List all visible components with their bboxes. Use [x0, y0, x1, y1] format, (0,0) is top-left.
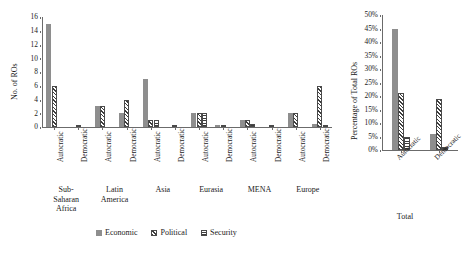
right-y-tick: 45% [354, 25, 378, 32]
right-y-tickmark [380, 29, 381, 31]
right-y-tick: 5% [354, 133, 378, 140]
legend: EconomicPoliticalSecurity [96, 228, 237, 237]
left-x-tickmark [78, 128, 79, 130]
right-y-tickmark [380, 123, 381, 125]
right-y-tickmark [380, 150, 381, 152]
right-y-tickmark [380, 83, 381, 85]
region-label: Europe [281, 185, 335, 195]
right-y-tickmark [380, 110, 381, 112]
x-tick-democratic: Democratic [323, 128, 331, 162]
legend-item-security: Security [201, 228, 237, 237]
legend-item-political: Political [151, 228, 187, 237]
left-y-tickmark [40, 86, 41, 88]
legend-label: Security [210, 228, 237, 237]
bar-political [293, 113, 298, 127]
left-y-tickmark [40, 17, 41, 19]
left-y-tick: 16 [16, 13, 38, 20]
left-y-tick: 0 [16, 123, 38, 130]
region-label: Asia [136, 185, 190, 195]
right-y-tick: 30% [354, 65, 378, 72]
bar-political [100, 106, 105, 127]
right-y-axis-line [382, 15, 383, 151]
x-tick-autocratic: Autocratic [57, 132, 65, 162]
x-tick-autocratic: Autocratic [202, 132, 210, 162]
bar-economic [143, 79, 148, 127]
bar-political [52, 86, 57, 127]
region-label: LatinAmerica [88, 185, 142, 204]
left-y-tick: 8 [16, 68, 38, 75]
bar-security [154, 120, 159, 127]
bar-economic [288, 113, 293, 127]
left-y-tick: 4 [16, 96, 38, 103]
bar-political [148, 120, 153, 127]
bar-economic [215, 125, 220, 127]
bar-political [398, 93, 404, 150]
bar-security [202, 113, 207, 127]
bar-political [124, 100, 129, 128]
bar-economic [312, 124, 317, 127]
left-x-tickmark [223, 128, 224, 130]
bar-economic [430, 134, 436, 150]
left-y-tick: 10 [16, 55, 38, 62]
figure-root: No. of ROs 0246810121416 AutocraticDemoc… [0, 0, 465, 256]
right-y-tick: 40% [354, 38, 378, 45]
right-y-tickmark [380, 42, 381, 44]
bar-political [221, 125, 226, 127]
right-y-tickmark [380, 56, 381, 58]
right-y-tick: 25% [354, 79, 378, 86]
bar-economic [240, 120, 245, 127]
left-y-tickmark [40, 113, 41, 115]
x-tick-democratic: Democratic [130, 128, 138, 162]
x-tick-democratic: Democratic [275, 128, 283, 162]
bar-economic [119, 113, 124, 127]
right-y-tick: 35% [354, 52, 378, 59]
bar-political [197, 113, 202, 127]
left-x-tickmark [272, 128, 273, 130]
right-x-axis-label: Total [370, 212, 440, 222]
left-y-tick: 12 [16, 41, 38, 48]
right-chart-panel: Percentage of Total ROs 0%5%10%15%20%25%… [340, 0, 465, 256]
right-y-tick: 10% [354, 119, 378, 126]
x-tick-autocratic: Autocratic [299, 132, 307, 162]
x-tick-democratic: Democratic [226, 128, 234, 162]
right-x-tickmark [439, 151, 440, 153]
right-y-tick: 50% [354, 11, 378, 18]
x-tick-autocratic: Autocratic [154, 132, 162, 162]
right-y-axis-label: Percentage of Total ROs [350, 62, 359, 140]
legend-swatch-economic-icon [96, 230, 102, 236]
left-chart-panel: No. of ROs 0246810121416 AutocraticDemoc… [0, 0, 340, 256]
right-x-tickmark [401, 151, 402, 153]
x-tick-autocratic: Autocratic [250, 132, 258, 162]
right-y-tick: 20% [354, 92, 378, 99]
bar-economic [95, 106, 100, 127]
right-y-tickmark [380, 96, 381, 98]
bar-economic [392, 29, 398, 151]
left-x-tickmark [151, 128, 152, 130]
region-label: Eurasia [184, 185, 238, 195]
right-y-tickmark [380, 69, 381, 71]
region-label: MENA [233, 185, 287, 195]
left-x-tickmark [199, 128, 200, 130]
legend-item-economic: Economic [96, 228, 137, 237]
left-x-tickmark [320, 128, 321, 130]
left-y-tickmark [40, 72, 41, 74]
legend-label: Political [160, 228, 187, 237]
left-x-tickmark [54, 128, 55, 130]
left-x-tickmark [247, 128, 248, 130]
bar-political [76, 125, 81, 127]
right-y-tick: 0% [354, 146, 378, 153]
right-y-tick: 15% [354, 106, 378, 113]
left-y-tickmark [40, 45, 41, 47]
legend-label: Economic [105, 228, 137, 237]
left-y-tickmark [40, 58, 41, 60]
region-label: Sub-SaharanAfrica [39, 185, 93, 214]
left-y-axis-line [42, 17, 43, 128]
left-y-tickmark [40, 100, 41, 102]
left-x-tickmark [296, 128, 297, 130]
x-tick-autocratic: Autocratic [105, 132, 113, 162]
bar-political [436, 99, 442, 150]
legend-swatch-political-icon [151, 230, 157, 236]
x-tick-democratic: Democratic [81, 128, 89, 162]
bar-political [269, 125, 274, 127]
left-x-tickmark [102, 128, 103, 130]
